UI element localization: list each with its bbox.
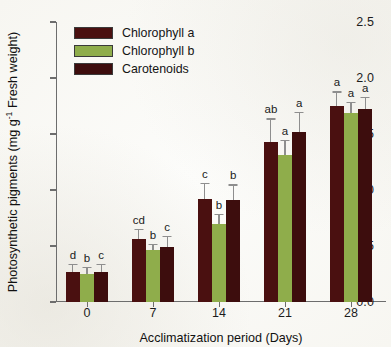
x-tick-label: 0	[84, 306, 91, 320]
legend-color-swatch	[74, 63, 113, 75]
error-bar-cap	[134, 229, 143, 230]
error-bar	[299, 112, 300, 132]
x-tick-label: 28	[344, 306, 358, 320]
significance-letter: a	[348, 87, 354, 99]
x-axis-title: Acclimatization period (Days)	[139, 331, 302, 345]
bar	[226, 200, 240, 302]
error-bar	[138, 229, 139, 239]
significance-letter: c	[164, 221, 170, 233]
significance-letter: b	[230, 169, 236, 181]
error-bar-cap	[149, 244, 158, 245]
significance-letter: cd	[133, 214, 145, 226]
x-tick-label: 21	[278, 306, 292, 320]
bar	[344, 113, 358, 302]
bar	[94, 272, 108, 302]
error-bar-cap	[266, 118, 275, 119]
error-bar	[270, 118, 271, 142]
significance-letter: b	[84, 252, 90, 264]
y-axis-title-exponent: -1	[4, 112, 14, 120]
legend-label: Carotenoids	[122, 62, 189, 76]
legend-color-swatch	[74, 27, 113, 39]
legend-item[interactable]: Carotenoids	[74, 62, 194, 76]
error-bar-cap	[281, 140, 290, 141]
bar	[212, 224, 226, 302]
bar	[292, 132, 306, 302]
error-bar-cap	[68, 264, 77, 265]
bar	[278, 155, 292, 302]
y-tick-mark	[50, 133, 56, 134]
error-bar-cap	[97, 264, 106, 265]
significance-letter: d	[70, 249, 76, 261]
error-bar-cap	[332, 91, 341, 92]
error-bar	[204, 183, 205, 199]
bar	[80, 274, 94, 302]
significance-letter: b	[216, 199, 222, 211]
significance-letter: c	[98, 249, 104, 261]
bar	[132, 239, 146, 302]
bar	[330, 106, 344, 302]
y-axis-title-main: Photosynthetic pigments (mg g	[6, 119, 20, 292]
significance-letter: a	[362, 82, 368, 94]
significance-letter: a	[282, 125, 288, 137]
bar	[198, 199, 212, 302]
error-bar-cap	[347, 102, 356, 103]
significance-letter: a	[334, 76, 340, 88]
x-tick-label: 7	[150, 306, 157, 320]
y-tick-mark	[50, 77, 56, 78]
significance-letter: c	[202, 168, 208, 180]
error-bar-cap	[229, 184, 238, 185]
legend-label: Chlorophyll b	[122, 44, 194, 58]
error-bar	[365, 97, 366, 109]
x-tick-label: 14	[212, 306, 226, 320]
figure-canvas: 0.00.51.01.52.02.5 07142128 dbccdbccbbab…	[0, 0, 391, 347]
y-tick-mark	[50, 21, 56, 22]
y-tick-mark	[50, 189, 56, 190]
y-tick-label: 2.5	[356, 15, 374, 29]
y-tick-mark	[50, 301, 56, 302]
error-bar	[233, 184, 234, 200]
y-axis-title: Photosynthetic pigments (mg g-1 Fresh we…	[4, 32, 20, 292]
y-axis-line	[56, 22, 57, 302]
chart-legend: Chlorophyll aChlorophyll bCarotenoids	[74, 26, 194, 80]
bar	[66, 272, 80, 302]
significance-letter: ab	[264, 103, 277, 115]
error-bar-cap	[215, 214, 224, 215]
legend-item[interactable]: Chlorophyll b	[74, 44, 194, 58]
legend-color-swatch	[74, 45, 113, 57]
bar	[146, 250, 160, 302]
error-bar	[167, 236, 168, 247]
bar	[358, 109, 372, 302]
significance-letter: b	[150, 229, 156, 241]
y-tick-mark	[50, 245, 56, 246]
error-bar-cap	[163, 236, 172, 237]
legend-item[interactable]: Chlorophyll a	[74, 26, 194, 40]
significance-letter: a	[296, 97, 302, 109]
error-bar	[284, 140, 285, 156]
error-bar-cap	[295, 112, 304, 113]
bar	[264, 142, 278, 302]
error-bar	[218, 214, 219, 224]
error-bar	[350, 102, 351, 113]
error-bar	[336, 91, 337, 106]
bar	[160, 247, 174, 302]
error-bar-cap	[361, 97, 370, 98]
legend-label: Chlorophyll a	[122, 26, 194, 40]
y-axis-title-tail: Fresh weight)	[6, 32, 20, 112]
error-bar-cap	[83, 267, 92, 268]
error-bar-cap	[200, 183, 209, 184]
